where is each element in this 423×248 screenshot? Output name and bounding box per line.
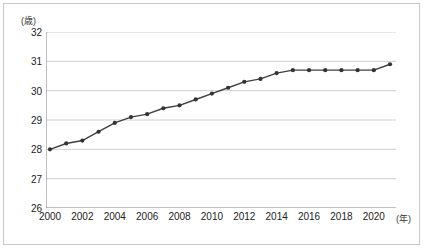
data-point-marker (210, 92, 214, 96)
data-point-marker (80, 138, 84, 142)
data-point-marker (339, 68, 343, 72)
x-axis-tick-label: 2002 (71, 211, 93, 222)
x-axis-tick-label: 2000 (39, 211, 61, 222)
x-axis-tick-label: 2016 (298, 211, 320, 222)
x-axis-tick-labels: 2000200220042006200820102012201420162018… (46, 211, 396, 227)
data-point-marker (307, 68, 311, 72)
data-point-markers (48, 62, 392, 151)
data-point-marker (64, 141, 68, 145)
x-axis-tick-label: 2012 (233, 211, 255, 222)
x-axis-tick-label: 2006 (136, 211, 158, 222)
data-point-marker (275, 71, 279, 75)
x-axis-tick-label: 2008 (168, 211, 190, 222)
data-point-marker (48, 147, 52, 151)
x-axis-tick-label: 2004 (104, 211, 126, 222)
x-axis-unit-label: (年) (396, 212, 411, 225)
y-axis-tick-label: 27 (20, 173, 42, 184)
data-point-marker (161, 106, 165, 110)
data-point-marker (177, 103, 181, 107)
line-chart-svg (46, 32, 396, 208)
x-axis-tick-label: 2014 (266, 211, 288, 222)
data-point-marker (291, 68, 295, 72)
data-point-marker (356, 68, 360, 72)
data-point-marker (96, 130, 100, 134)
data-line-series (50, 64, 390, 149)
y-axis-tick-label: 28 (20, 144, 42, 155)
data-point-marker (226, 86, 230, 90)
data-point-marker (258, 77, 262, 81)
chart-page: (歳) 32313029282726 200020022004200620082… (0, 0, 423, 248)
y-axis-tick-label: 29 (20, 115, 42, 126)
data-point-marker (129, 115, 133, 119)
x-axis-tick-label: 2020 (363, 211, 385, 222)
y-axis-unit-label: (歳) (21, 14, 36, 27)
data-point-marker (145, 112, 149, 116)
data-point-marker (113, 121, 117, 125)
y-axis-tick-labels: 32313029282726 (18, 32, 42, 208)
plot-area (46, 32, 396, 208)
x-axis-tick-label: 2018 (330, 211, 352, 222)
y-axis-tick-label: 32 (20, 27, 42, 38)
x-axis-tick-label: 2010 (201, 211, 223, 222)
y-axis-tick-label: 31 (20, 56, 42, 67)
data-point-marker (388, 62, 392, 66)
gridlines (46, 32, 396, 208)
y-axis-tick-label: 30 (20, 85, 42, 96)
data-point-marker (242, 80, 246, 84)
data-point-marker (372, 68, 376, 72)
data-point-marker (323, 68, 327, 72)
data-point-marker (194, 97, 198, 101)
